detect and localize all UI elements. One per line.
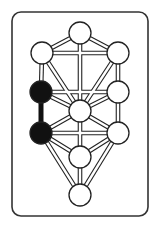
tree-of-life-svg: [0, 0, 161, 233]
node-n4: [107, 81, 129, 103]
node-n2: [107, 42, 129, 64]
tree-of-life-diagram: [0, 0, 161, 233]
node-n8-highlighted: [30, 122, 52, 144]
node-n3: [31, 42, 53, 64]
node-n6: [69, 100, 91, 122]
node-n9: [69, 146, 91, 168]
node-n7: [107, 122, 129, 144]
node-n5-highlighted: [30, 81, 52, 103]
node-n1: [69, 22, 91, 44]
node-n10: [69, 184, 91, 206]
